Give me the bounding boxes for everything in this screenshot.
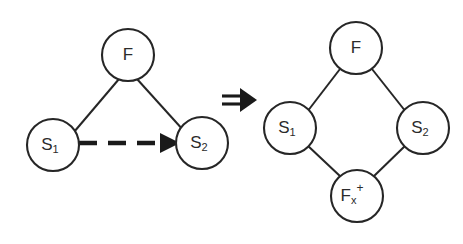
node-s1-left[interactable]: S1 bbox=[27, 119, 79, 171]
right-graph: F S1 S2 bbox=[264, 22, 449, 222]
node-s2-right[interactable]: S2 bbox=[397, 102, 449, 154]
left-graph: F S1 S2 bbox=[27, 29, 228, 171]
edge-f-to-s1 bbox=[74, 79, 119, 132]
right-graph-edges bbox=[307, 69, 406, 177]
node-label-f-left: F bbox=[123, 45, 133, 64]
node-f-right[interactable]: F bbox=[330, 22, 382, 74]
implies-operator-icon bbox=[222, 88, 257, 112]
edge-f-to-s2-right bbox=[372, 69, 406, 112]
node-s1-right[interactable]: S1 bbox=[264, 102, 316, 154]
implies-arrowhead bbox=[240, 88, 257, 112]
node-f-left[interactable]: F bbox=[102, 29, 154, 81]
node-label-f-right: F bbox=[351, 38, 361, 57]
left-graph-nodes: F S1 S2 bbox=[27, 29, 228, 171]
diagram-canvas: F S1 S2 bbox=[0, 0, 463, 244]
node-s2-left[interactable]: S2 bbox=[176, 117, 228, 169]
node-fx-plus-right[interactable]: Fx+ bbox=[331, 170, 383, 222]
right-graph-nodes: F S1 S2 bbox=[264, 22, 449, 222]
edge-s2-to-fx-right bbox=[373, 145, 406, 177]
edge-s1-to-fx-right bbox=[307, 145, 341, 177]
node-circle bbox=[331, 170, 383, 222]
diagram-svg: F S1 S2 bbox=[0, 0, 463, 244]
edge-f-to-s2 bbox=[137, 79, 184, 131]
edge-f-to-s1-right bbox=[307, 69, 340, 112]
left-graph-edges bbox=[74, 79, 184, 153]
